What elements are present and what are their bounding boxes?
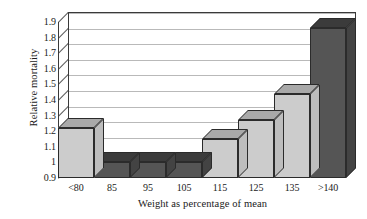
y-axis-tick-label: 1.9 bbox=[32, 17, 56, 27]
y-axis-tick-label: 1.4 bbox=[32, 95, 56, 105]
x-axis-tick-label: >140 bbox=[310, 181, 346, 197]
bar bbox=[58, 128, 94, 178]
y-axis-tick-label: 1.7 bbox=[32, 48, 56, 58]
y-axis-tick-label: 1.1 bbox=[32, 142, 56, 152]
gridline bbox=[69, 13, 355, 14]
y-axis-tick-label: 1.8 bbox=[32, 33, 56, 43]
x-axis-tick-label: <80 bbox=[58, 181, 94, 197]
x-axis-tick-label: 85 bbox=[94, 181, 130, 197]
bar-side-face bbox=[346, 18, 356, 178]
bar-side-face bbox=[310, 84, 320, 178]
y-axis-tick-label: 1.3 bbox=[32, 111, 56, 121]
x-axis-tick-label: 125 bbox=[238, 181, 274, 197]
y-axis-tick-label: 0.9 bbox=[32, 173, 56, 183]
x-axis-tick-label: 105 bbox=[166, 181, 202, 197]
bar-chart-figure: Relative mortality 1.91.81.71.61.51.41.3… bbox=[0, 0, 367, 219]
x-axis-tick-label: 115 bbox=[202, 181, 238, 197]
bar-side-face bbox=[274, 110, 284, 178]
x-axis-tick-label: 95 bbox=[130, 181, 166, 197]
x-axis-tick-labels: <808595105115125135>140 bbox=[58, 181, 346, 197]
x-axis-tick-label: 135 bbox=[274, 181, 310, 197]
y-axis-tick-label: 1 bbox=[32, 157, 56, 167]
plot-area bbox=[58, 22, 346, 178]
bar-front-face bbox=[58, 128, 94, 178]
bar-side-face bbox=[94, 118, 104, 178]
x-axis-title: Weight as percentage of mean bbox=[45, 198, 360, 209]
y-axis-tick-labels: 1.91.81.71.61.51.41.31.21.110.9 bbox=[28, 0, 56, 219]
bar-series bbox=[58, 22, 346, 178]
y-axis-tick-label: 1.6 bbox=[32, 64, 56, 74]
y-axis-tick-label: 1.5 bbox=[32, 79, 56, 89]
y-axis-tick-label: 1.2 bbox=[32, 126, 56, 136]
